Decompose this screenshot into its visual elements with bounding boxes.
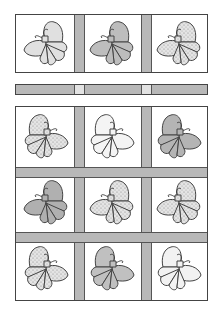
butterfly-block-r2c2	[84, 175, 140, 231]
separator-strip	[15, 84, 208, 95]
butterfly-icon	[84, 109, 140, 165]
butterfly-block-r3c3	[151, 241, 207, 297]
butterfly-icon	[151, 109, 207, 165]
butterfly-icon	[18, 16, 74, 72]
butterfly-block-r1c1	[18, 109, 74, 165]
butterfly-icon	[84, 241, 140, 297]
butterfly-icon	[18, 175, 74, 231]
butterfly-icon	[151, 175, 207, 231]
butterfly-block-3	[151, 16, 207, 72]
butterfly-block-1	[18, 16, 74, 72]
butterfly-icon	[84, 16, 140, 72]
butterfly-icon	[18, 241, 74, 297]
butterfly-block-r1c2	[84, 109, 140, 165]
grid-block	[15, 106, 208, 301]
butterfly-block-r3c2	[84, 241, 140, 297]
butterfly-icon	[18, 109, 74, 165]
butterfly-block-r2c3	[151, 175, 207, 231]
top-row-block	[15, 14, 208, 73]
butterfly-block-2	[84, 16, 140, 72]
butterfly-icon	[84, 175, 140, 231]
butterfly-icon	[151, 241, 207, 297]
butterfly-block-r1c3	[151, 109, 207, 165]
cornerstone	[141, 85, 152, 94]
butterfly-block-r3c1	[18, 241, 74, 297]
butterfly-icon	[151, 16, 207, 72]
cornerstone	[74, 85, 85, 94]
butterfly-block-r2c1	[18, 175, 74, 231]
